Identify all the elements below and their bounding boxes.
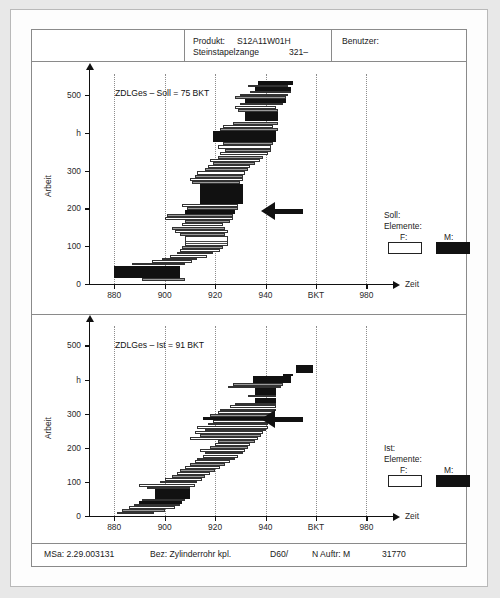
chart-bar [200,449,245,452]
y-axis-tick-label: 500 [51,90,81,100]
chart-bar [210,159,260,162]
chart-bar [165,217,233,220]
y-axis-arrowhead-icon [86,63,94,70]
chart-bar [139,484,195,487]
x-axis-tick-label: 880 [96,522,132,532]
produkt-name: Steinstapelzange [193,47,259,57]
chart-bar [255,388,275,395]
chart-bar [213,131,276,142]
chart-bar [245,112,278,121]
x-axis-arrowhead-icon [393,281,400,289]
legend-ist-title: Ist: [384,443,395,453]
chart-bar [218,156,263,159]
chart-bar [190,463,225,466]
legend-soll-m-swatch [436,242,470,254]
x-axis-tick [215,285,216,289]
x-axis-line [89,284,393,285]
y-axis-tick-label: 100 [51,241,81,251]
x-axis-tick [266,517,267,521]
chart-bar [240,103,283,106]
chart-bar [296,365,314,373]
chart-bar [190,178,243,181]
legend-ist-f-label: F: [400,465,407,475]
chart-bar [167,214,233,217]
gridline-vertical [316,326,317,516]
chart-bar [195,431,263,434]
chart-bar [240,94,288,97]
x-axis-tick [114,517,115,521]
chart-bar [160,481,198,484]
legend-ist-f-swatch [388,475,422,487]
y-axis-tick-label: h [51,375,81,385]
chart-bar [142,499,185,501]
y-axis-tick [85,171,89,172]
chart-panel-ist: 0100200300h500880900920940BKT980ZeitArbe… [32,315,466,544]
produkt-label: Produkt: [193,36,225,46]
y-axis-tick [85,448,89,449]
chart-bar [250,91,290,93]
x-axis-tick-label: BKT [298,290,334,300]
chart-bar [185,210,235,213]
pointer-arrow-shaft [274,417,304,422]
legend-soll-f-swatch [388,242,422,254]
chart-bar [162,258,197,261]
chart-bar [208,165,251,168]
chart-bar [182,223,222,226]
gridline-vertical [114,74,115,284]
x-axis-tick-label: BKT [298,522,334,532]
chart-bar [172,227,225,230]
footer-number: 31770 [382,549,406,559]
chart-bar [283,374,293,376]
chart-bar [152,260,192,263]
chart-bar [155,489,190,499]
chart-bar [215,443,250,446]
chart-bar [213,162,256,165]
x-axis-title: Zeit [405,279,419,289]
footer-msa: MSa: 2.29.003131 [44,549,114,559]
y-axis-tick [85,208,89,209]
x-axis-tick [266,285,267,289]
x-axis-tick [165,517,166,521]
y-axis-title: Arbeit [43,417,53,439]
y-axis-tick [85,380,89,381]
x-axis-tick-label: 980 [348,522,384,532]
y-axis-tick [85,482,89,483]
chart-bar [208,423,269,426]
chart-bar [182,246,222,249]
chart-bar [185,466,220,469]
x-axis-tick-label: 940 [248,522,284,532]
chart-bar [235,403,275,405]
chart-bar [122,509,165,511]
y-axis-tick-label: 300 [51,166,81,176]
chart-title-annotation: ZDLGes – Soll = 75 BKT [115,88,209,98]
chart-bar [147,487,190,489]
chart-panel-soll: 0100200300h500880900920940BKT980ZeitArbe… [32,62,466,315]
chart-bar [203,455,238,458]
pointer-arrow-head-icon [261,410,275,428]
chart-bar [223,125,273,129]
chart-bar [245,99,285,103]
footer-d60: D60/ [270,549,288,559]
benutzer-label: Benutzer: [342,36,379,46]
chart-bar [210,446,248,449]
legend-ist-m-label: M: [444,465,453,475]
chart-bar [248,395,276,398]
chart-bar [205,452,243,455]
chart-bar [180,249,220,252]
chart-bar [129,506,174,509]
chart-bar [255,87,290,91]
chart-soll: 0100200300h500880900920940BKT980ZeitArbe… [32,62,466,314]
x-axis-tick [165,285,166,289]
chart-bar [218,145,271,149]
chart-bar [258,81,293,84]
chart-bar [177,472,210,475]
chart-bar [175,230,228,233]
report-header: Produkt: S12A11W01H Steinstapelzange 321… [32,30,466,62]
legend-soll-f-label: F: [400,232,407,242]
x-axis-tick-label: 920 [197,522,233,532]
gridline-vertical [366,74,367,284]
chart-bar [235,96,285,99]
legend-ist-m-swatch [436,475,470,487]
chart-bar [142,278,185,281]
y-axis-tick [85,246,89,247]
